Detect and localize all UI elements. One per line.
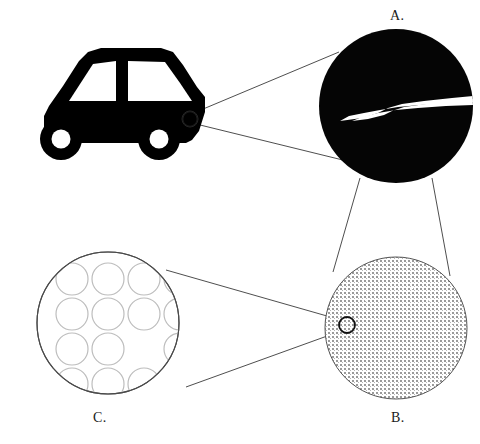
car-headlight xyxy=(182,111,198,127)
speckle xyxy=(451,325,454,328)
speckle xyxy=(439,317,442,320)
panel-label-a: A. xyxy=(390,8,404,24)
multiscale-diagram-canvas xyxy=(0,0,480,444)
magnified-grain-circle xyxy=(325,257,467,399)
panel-label-b: B. xyxy=(391,410,404,426)
circle-b-disc xyxy=(325,257,467,399)
magnified-crack-circle xyxy=(319,29,474,183)
speckle xyxy=(365,299,367,301)
figure-root: A. B. C. xyxy=(0,0,480,444)
car-front-hub xyxy=(150,130,169,149)
speckle xyxy=(428,298,431,301)
speckle xyxy=(411,287,414,290)
car-rear-hub xyxy=(52,130,71,149)
speckle xyxy=(387,351,389,353)
panel-label-c: C. xyxy=(93,410,106,426)
